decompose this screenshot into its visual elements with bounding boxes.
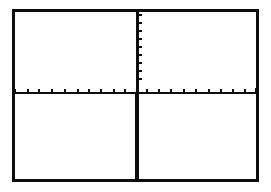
y-tick (139, 62, 142, 64)
x-tick (124, 89, 126, 92)
y-tick (139, 70, 142, 72)
x-axis-end-tick (255, 88, 257, 93)
x-tick (100, 89, 102, 92)
x-tick (195, 89, 197, 92)
x-tick (183, 89, 185, 92)
x-tick (170, 89, 172, 92)
y-tick (139, 14, 142, 16)
x-tick (27, 89, 29, 92)
x-tick (64, 89, 66, 92)
x-tick (14, 89, 16, 92)
y-tick (139, 54, 142, 56)
x-tick (220, 89, 222, 92)
y-axis-negative (135, 93, 139, 180)
y-tick (139, 78, 142, 80)
x-tick (232, 89, 234, 92)
x-tick (146, 89, 148, 92)
y-tick (139, 46, 142, 48)
x-tick (113, 89, 115, 92)
x-tick (38, 89, 40, 92)
x-tick (77, 89, 79, 92)
x-tick (208, 89, 210, 92)
y-tick (139, 22, 142, 24)
x-tick (88, 89, 90, 92)
y-tick (139, 38, 142, 40)
x-tick (51, 89, 53, 92)
x-tick (158, 89, 160, 92)
x-tick (244, 89, 246, 92)
y-tick (139, 30, 142, 32)
